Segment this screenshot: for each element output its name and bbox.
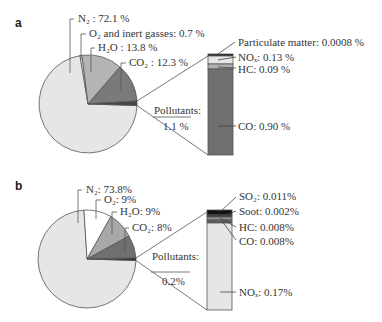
panel-a-letter: a xyxy=(15,16,22,30)
emissions-composition-figure: a N₂ : 72.1 % O₂ and inert gasses xyxy=(0,0,382,322)
label-o2-b: O₂: 9% xyxy=(104,193,136,205)
label-hc-b: HC: 0.008% xyxy=(239,221,294,233)
pollutants-bar-a xyxy=(208,54,233,155)
label-so2-b: SO₂: 0.011% xyxy=(239,190,296,202)
label-co2-a: CO₂ : 12.3 % xyxy=(129,56,188,68)
label-nox-a: NOₓ: 0.13 % xyxy=(238,51,294,63)
panel-b: b N₂: 73.8% O₂: 9% H₂O: 9% CO₂: 8% Pollu… xyxy=(15,179,299,310)
bar-segment-nox xyxy=(207,223,232,310)
pollutants-bar-b xyxy=(207,210,232,310)
bar-segment-hc xyxy=(207,217,232,220)
label-pollutants-value-a: 1.1 % xyxy=(163,120,189,132)
pie-chart-b xyxy=(38,210,136,308)
label-co-a: CO: 0.90 % xyxy=(238,120,290,132)
label-nox-b: NOₓ: 0.17% xyxy=(239,286,292,298)
bar-segment-hc xyxy=(208,64,233,69)
pie-chart-a xyxy=(39,55,137,153)
label-pollutants-value-b: 0.2% xyxy=(162,275,185,287)
panel-b-letter: b xyxy=(15,179,22,193)
label-co2-b: CO₂: 8% xyxy=(132,221,172,233)
label-soot-b: Soot: 0.002% xyxy=(239,205,299,217)
label-pollutants-title-b: Pollutants: xyxy=(152,250,199,262)
label-h2o-b: H₂O: 9% xyxy=(120,205,160,217)
label-pollutants-title-a: Pollutants: xyxy=(154,104,201,116)
label-h2o-a: H₂O : 13.8 % xyxy=(98,41,157,53)
bar-segment-nox xyxy=(208,56,233,64)
label-pm-a: Particulate matter: 0.0008 % xyxy=(238,36,364,48)
bar-segment-so2 xyxy=(207,210,232,215)
label-co-b: CO: 0.008% xyxy=(239,235,294,247)
bar-segment-co xyxy=(208,69,233,155)
label-hc-a: HC: 0.09 % xyxy=(238,63,290,75)
label-n2-a: N₂ : 72.1 % xyxy=(78,12,130,24)
panel-a: a N₂ : 72.1 % O₂ and inert gasses xyxy=(15,12,364,155)
label-o2-a: O₂ and inert gasses: 0.7 % xyxy=(89,27,205,39)
